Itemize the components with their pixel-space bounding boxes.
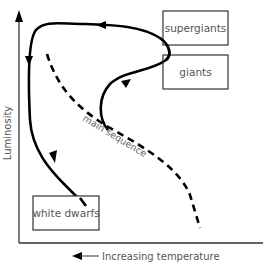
white-dwarfs-label: white dwarfs: [32, 207, 99, 219]
supergiants-label: supergiants: [165, 22, 227, 34]
giants-label: giants: [179, 66, 211, 78]
path-arrow-down-icon-2: [49, 150, 57, 163]
path-arrow-left-icon: [96, 21, 106, 29]
y-axis-arrowhead-icon: [15, 10, 23, 22]
y-axis-label: Luminosity: [2, 106, 13, 161]
hr-diagram: Luminosity Increasing temperature main s…: [0, 0, 271, 267]
supergiants-box: supergiants: [163, 11, 228, 45]
evolution-path: [29, 23, 169, 206]
white-dwarfs-box: white dwarfs: [32, 196, 99, 230]
main-sequence-label: main sequence: [81, 112, 149, 159]
giants-box: giants: [163, 55, 228, 89]
path-arrow-down-icon: [25, 56, 33, 66]
x-axis-label-group: Increasing temperature: [72, 251, 220, 262]
x-axis-label: Increasing temperature: [102, 251, 220, 262]
path-arrow-up-icon: [121, 79, 131, 88]
